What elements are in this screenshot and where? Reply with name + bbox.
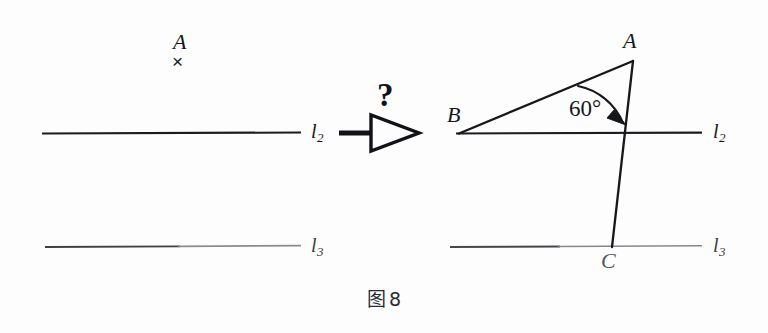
left-line-l2-label: l2 bbox=[311, 121, 324, 144]
right-line-l2-label: l2 bbox=[713, 121, 726, 144]
angle-60-label: 60° bbox=[569, 97, 601, 120]
left-point-a-label: A bbox=[173, 31, 186, 53]
figure-canvas bbox=[0, 0, 768, 333]
left-line-l3-label: l3 bbox=[311, 235, 324, 258]
segment-ab bbox=[459, 61, 633, 134]
transform-arrow-group bbox=[339, 115, 419, 151]
right-vertex-a-label: A bbox=[623, 30, 636, 52]
left-line-l2-letter: l bbox=[311, 120, 317, 142]
left-line-l3-letter: l bbox=[311, 234, 317, 256]
right-line-l2-subscript: 2 bbox=[719, 130, 726, 145]
left-panel-group bbox=[42, 133, 301, 248]
right-line-l3-dark bbox=[450, 247, 560, 248]
right-vertex-c-label: C bbox=[601, 250, 616, 272]
figure-caption: 图8 bbox=[0, 290, 768, 309]
left-line-l3-faded bbox=[178, 246, 301, 247]
question-mark-label: ? bbox=[377, 79, 394, 112]
caption-glyph: 图 bbox=[367, 288, 389, 310]
right-line-l2 bbox=[456, 133, 702, 134]
right-vertex-b-label: B bbox=[447, 104, 460, 126]
left-point-a-cross-icon: × bbox=[172, 52, 183, 71]
right-line-l3-label: l3 bbox=[713, 235, 726, 258]
arrow-triangle-right-icon bbox=[371, 115, 419, 151]
right-line-l3-letter: l bbox=[713, 234, 719, 256]
segment-ac bbox=[612, 61, 633, 247]
caption-number: 8 bbox=[389, 288, 401, 310]
left-line-l2 bbox=[42, 133, 301, 134]
left-line-l3-dark bbox=[45, 246, 180, 247]
right-line-l3-faded bbox=[558, 246, 702, 247]
right-line-l3-subscript: 3 bbox=[719, 244, 726, 259]
left-line-l3-subscript: 3 bbox=[317, 244, 324, 259]
right-line-l2-letter: l bbox=[713, 120, 719, 142]
geometry-figure: A × l2 l3 ? A B C 60° l2 l3 图8 bbox=[0, 0, 768, 333]
right-panel-group bbox=[450, 61, 702, 247]
left-line-l2-subscript: 2 bbox=[317, 130, 324, 145]
